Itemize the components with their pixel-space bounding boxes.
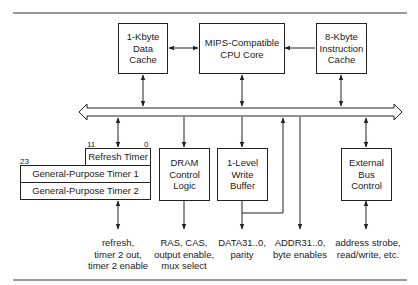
data-cache-block: 1-Kbyte Data Cache [118,23,168,74]
instruction-cache-block: 8-Kbyte Instruction Cache [316,23,367,74]
cpu-core-block: MIPS-Compatible CPU Core [199,23,285,74]
external-bus-block: External Bus Control [341,148,392,201]
dram-control-block: DRAM Control Logic [159,148,210,201]
bus-signals-label: address strobe, read/write, etc. [326,237,410,260]
data-signals-label: DATA31..0, parity [210,237,274,260]
addr-signals-label: ADDR31..0, byte enables [268,237,332,260]
gp-timer-1-block: General-Purpose Timer 1 [20,165,151,183]
refresh-timer-block: Refresh Timer [85,148,151,166]
gp-timer-2-block: General-Purpose Timer 2 [20,182,151,200]
write-buffer-block: 1-Level Write Buffer [217,148,268,201]
timer-signals-label: refresh, timer 2 out, timer 2 enable [78,237,158,272]
internal-bus-arrow [79,104,402,120]
